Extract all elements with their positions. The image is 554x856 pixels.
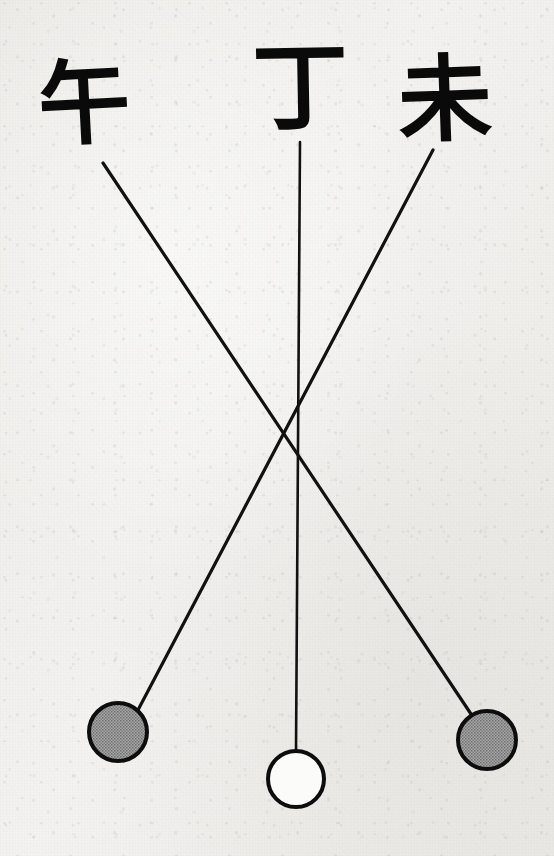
- center-node: [268, 751, 324, 807]
- left-node: [89, 703, 147, 761]
- node-group: [89, 703, 516, 807]
- right-node: [458, 711, 516, 769]
- connector-right-label-to-left-node: [138, 150, 433, 710]
- figure-canvas: 午 丁 未: [0, 0, 554, 856]
- connector-group: [103, 142, 471, 752]
- label-center-ding: 丁: [251, 39, 349, 137]
- connector-left-label-to-right-node: [103, 163, 471, 714]
- connector-center-label-to-center-node: [296, 142, 300, 752]
- label-right-wei: 未: [396, 50, 493, 147]
- label-left-wu: 午: [36, 56, 133, 153]
